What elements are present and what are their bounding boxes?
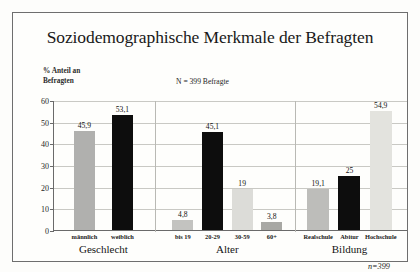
y-tick-mark [50,144,54,145]
gridline [53,101,407,102]
bar: 25Abitur [338,176,360,230]
bar-value-label: 54,9 [374,101,387,110]
group-label: Bildung [332,243,367,255]
sample-size-note: N = 399 Befragte [176,77,229,86]
sample-size-annotation: n=399 [368,262,390,271]
y-tick-mark [50,188,54,189]
bar-value-label: 3,8 [267,212,277,221]
category-label: Realschule [303,233,332,240]
y-tick-label: 10 [41,205,49,214]
chart-frame: Soziodemographische Merkmale der Befragt… [12,12,408,262]
y-tick-label: 20 [41,183,49,192]
category-label: Abitur [340,233,358,240]
category-label: Hochschule [365,233,397,240]
y-axis-label-line1: % Anteil an [43,66,80,76]
x-axis-line [53,230,407,231]
category-label: bis 19 [175,233,191,240]
chart-screenshot: Soziodemographische Merkmale der Befragt… [0,0,420,272]
bar: 45,9männlich [74,131,95,230]
y-tick-label: 0 [45,227,49,236]
group-separator [295,101,296,232]
bar: 4,8bis 19 [172,220,193,230]
group-label: Alter [216,243,239,255]
plot-area: 0102030405060 45,9männlich53,1weiblichGe… [53,101,407,231]
y-tick-label: 50 [41,118,49,127]
bar-value-label: 25 [346,166,354,175]
gridline [53,123,407,124]
y-tick-label: 60 [41,97,49,106]
y-tick-mark [50,101,54,102]
bar: 54,9Hochschule [370,111,392,230]
bar-value-label: 45,9 [78,121,91,130]
bar: 3,860+ [261,222,282,230]
bar: 1930-59 [232,189,253,230]
group-label: Geschlecht [79,243,128,255]
category-label: männlich [72,233,98,240]
y-axis-label-line2: Befragten [43,76,80,86]
y-tick-mark [50,166,54,167]
gridline [53,166,407,167]
bar: 19,1Realschule [307,189,329,230]
group-separator [155,101,156,232]
bar-value-label: 45,1 [206,122,219,131]
y-tick-mark [50,209,54,210]
category-label: weiblich [111,233,134,240]
category-label: 20-29 [205,233,220,240]
bar-value-label: 19,1 [312,179,325,188]
bar-value-label: 53,1 [116,105,129,114]
y-tick-label: 40 [41,140,49,149]
bar-value-label: 19 [238,179,246,188]
category-label: 60+ [267,233,277,240]
y-tick-mark [50,123,54,124]
bar: 53,1weiblich [112,115,133,230]
category-label: 30-59 [235,233,250,240]
y-tick-mark [50,231,54,232]
y-tick-label: 30 [41,162,49,171]
gridline [53,144,407,145]
page-title: Soziodemographische Merkmale der Befragt… [13,27,407,48]
bar-value-label: 4,8 [178,210,188,219]
bar: 45,120-29 [202,132,223,230]
y-axis-label: % Anteil an Befragten [43,66,80,85]
